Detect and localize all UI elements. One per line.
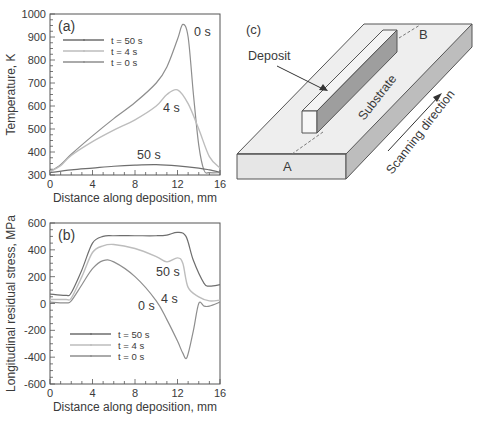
legend-label: t = 50 s: [118, 329, 150, 340]
chart-a: 04812163004005006007008009001000Distance…: [4, 8, 226, 205]
y-tick-label: 900: [28, 31, 46, 43]
curve-annotation: 0 s: [194, 25, 211, 39]
y-tick-label: 400: [28, 146, 46, 158]
y-tick-label: 600: [28, 217, 46, 229]
x-tick-label: 8: [132, 387, 138, 399]
y-tick-label: -200: [24, 324, 46, 336]
x-tick-label: 12: [171, 178, 183, 190]
figure: 04812163004005006007008009001000Distance…: [0, 0, 483, 422]
x-axis-label: Distance along deposition, mm: [53, 400, 217, 414]
legend-label: t = 4 s: [111, 46, 137, 57]
series-line: [50, 232, 220, 295]
curve-annotation: 0 s: [138, 299, 155, 313]
legend: t = 50 st = 4 st = 0 s: [63, 35, 143, 68]
deposit-label: Deposit: [248, 49, 291, 63]
y-tick-label: -600: [24, 378, 46, 390]
y-tick-label: 1000: [22, 8, 46, 20]
legend-label: t = 0 s: [118, 351, 144, 362]
chart-b: 0481216-600-400-2000200400600Distance al…: [4, 215, 226, 414]
curve-annotation: 50 s: [137, 148, 161, 162]
substrate-diagram: (c)DepositSubstrateABScanning direction: [237, 22, 472, 179]
y-tick-label: 200: [28, 271, 46, 283]
point-a-label: A: [283, 159, 292, 174]
y-axis-label: Temperature, K: [4, 53, 18, 135]
panel-label: (c): [246, 22, 261, 37]
x-tick-label: 12: [171, 387, 183, 399]
point-b-label: B: [419, 27, 428, 42]
y-tick-label: 700: [28, 77, 46, 89]
legend-label: t = 4 s: [118, 340, 144, 351]
y-tick-label: 400: [28, 244, 46, 256]
y-tick-label: 800: [28, 54, 46, 66]
panel-label: (b): [58, 227, 75, 243]
x-tick-label: 16: [214, 178, 226, 190]
y-tick-label: 500: [28, 123, 46, 135]
x-tick-label: 16: [214, 387, 226, 399]
curve-annotation: 50 s: [156, 265, 180, 279]
x-tick-label: 8: [132, 178, 138, 190]
y-tick-label: 600: [28, 100, 46, 112]
y-axis-label: Longitudinal residual stress, MPa: [4, 215, 18, 392]
y-tick-label: 0: [40, 298, 46, 310]
y-tick-label: -400: [24, 351, 46, 363]
x-tick-label: 0: [47, 178, 53, 190]
deposit-front: [302, 111, 317, 133]
x-tick-label: 0: [47, 387, 53, 399]
curve-annotation: 4 s: [163, 101, 180, 115]
legend-label: t = 0 s: [111, 57, 137, 68]
y-tick-label: 300: [28, 169, 46, 181]
x-tick-label: 4: [89, 387, 95, 399]
series-line: [50, 244, 220, 301]
legend-label: t = 50 s: [111, 35, 143, 46]
curve-annotation: 4 s: [161, 292, 178, 306]
x-axis-label: Distance along deposition, mm: [53, 191, 217, 205]
panel-label: (a): [58, 18, 75, 34]
x-tick-label: 4: [89, 178, 95, 190]
legend: t = 50 st = 4 st = 0 s: [70, 329, 150, 362]
